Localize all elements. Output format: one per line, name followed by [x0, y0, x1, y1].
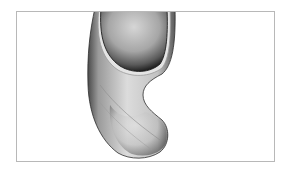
rendered-shape — [0, 0, 291, 169]
